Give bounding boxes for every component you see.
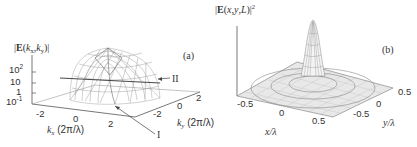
- x-axis-label-a: kx (2π/λ): [47, 124, 84, 135]
- panel-label-a: (a): [183, 50, 194, 61]
- z-tick-100: 102: [9, 64, 23, 75]
- panel-b: |E(x,y,L)|2 (b) -0.5 0 0.5 -0.5 0 0.5 x/…: [205, 0, 417, 147]
- x-tick-neg2-a: -2: [36, 108, 44, 119]
- y-tick-0-a: 0: [177, 100, 182, 111]
- x-tick-0-a: 0: [73, 113, 78, 124]
- z-axis-label-b: |E(x,y,L)|2: [215, 4, 255, 15]
- y-tick-neg0-5-b: -0.5: [353, 108, 369, 119]
- x-tick-neg0-5-b: -0.5: [237, 98, 253, 109]
- y-tick-0-b: 0: [376, 98, 381, 109]
- z-tick-0-1: 10-1: [6, 96, 22, 107]
- panel-a: |E(kx,ky)| 102 10 1 10-1 -2 0 2 -2 0 2 k…: [0, 0, 210, 147]
- z-axis-label-a: |E(kx,ky)|: [14, 42, 49, 53]
- x-tick-2-a: 2: [108, 118, 113, 129]
- y-axis-label-b: y/λ: [383, 117, 395, 128]
- annotation-II: II: [172, 73, 179, 84]
- y-tick-neg2-a: -2: [153, 108, 161, 119]
- panel-label-b: (b): [382, 44, 394, 55]
- x-tick-0-5-b: 0.5: [312, 115, 325, 126]
- annotation-I: I: [157, 129, 160, 140]
- y-tick-2-a: 2: [196, 92, 201, 103]
- x-axis-label-b: x/λ: [265, 126, 277, 137]
- x-tick-0-b: 0: [279, 107, 284, 118]
- y-tick-0-5-b: 0.5: [398, 86, 411, 97]
